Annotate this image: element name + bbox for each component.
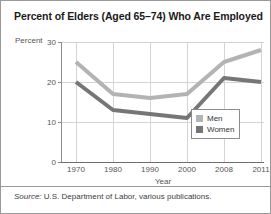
legend-item-women: Women — [196, 124, 234, 135]
y-tick-label-30: 30 — [34, 38, 56, 47]
x-tick-label-1980: 1980 — [93, 165, 133, 174]
x-axis-label: Year — [62, 177, 264, 186]
x-tick-label-1990: 1990 — [130, 165, 170, 174]
source-text: U.S. Department of Labor, various public… — [44, 192, 212, 201]
y-tick-label-0: 0 — [34, 158, 56, 167]
legend-label-men: Men — [207, 114, 223, 123]
source-label: Source: — [14, 192, 42, 201]
y-tick-label-10: 10 — [34, 118, 56, 127]
series-lines — [62, 42, 264, 162]
legend-label-women: Women — [207, 125, 234, 134]
x-axis-line — [61, 162, 264, 163]
x-tick-label-1970: 1970 — [56, 165, 96, 174]
x-tick-label-2008: 2008 — [204, 165, 244, 174]
y-tick-label-20: 20 — [34, 78, 56, 87]
chart-legend: Men Women — [191, 109, 240, 139]
legend-item-men: Men — [196, 113, 234, 124]
chart-title: Percent of Elders (Aged 65–74) Who Are E… — [14, 10, 262, 22]
legend-swatch-men — [196, 115, 203, 122]
x-tick-label-2011: 2011 — [241, 165, 271, 174]
legend-swatch-women — [196, 126, 203, 133]
source-note: Source: U.S. Department of Labor, variou… — [14, 192, 211, 201]
line-series-men — [76, 50, 261, 98]
x-tick-label-2000: 2000 — [167, 165, 207, 174]
footer-divider — [1, 186, 271, 187]
chart-figure: Percent of Elders (Aged 65–74) Who Are E… — [0, 0, 271, 214]
